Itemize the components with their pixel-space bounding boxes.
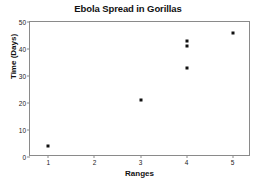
plot-area: 01020304050 12345 [29,21,250,156]
x-tick-mark [232,155,233,158]
x-tick-mark [94,155,95,158]
chart-title: Ebola Spread in Gorillas [0,3,256,14]
data-point-layer [30,22,249,155]
scatter-chart: Ebola Spread in Gorillas 01020304050 123… [0,0,256,179]
y-tick-mark [27,157,30,158]
x-tick-mark [186,155,187,158]
data-point [47,145,50,148]
x-tick-mark [48,155,49,158]
data-point [185,39,188,42]
data-point [185,66,188,69]
data-point [139,99,142,102]
x-axis-label: Ranges [29,169,250,178]
y-axis-label: Time (Days) [9,22,18,92]
data-point [185,45,188,48]
x-tick-mark [140,155,141,158]
data-point [231,31,234,34]
